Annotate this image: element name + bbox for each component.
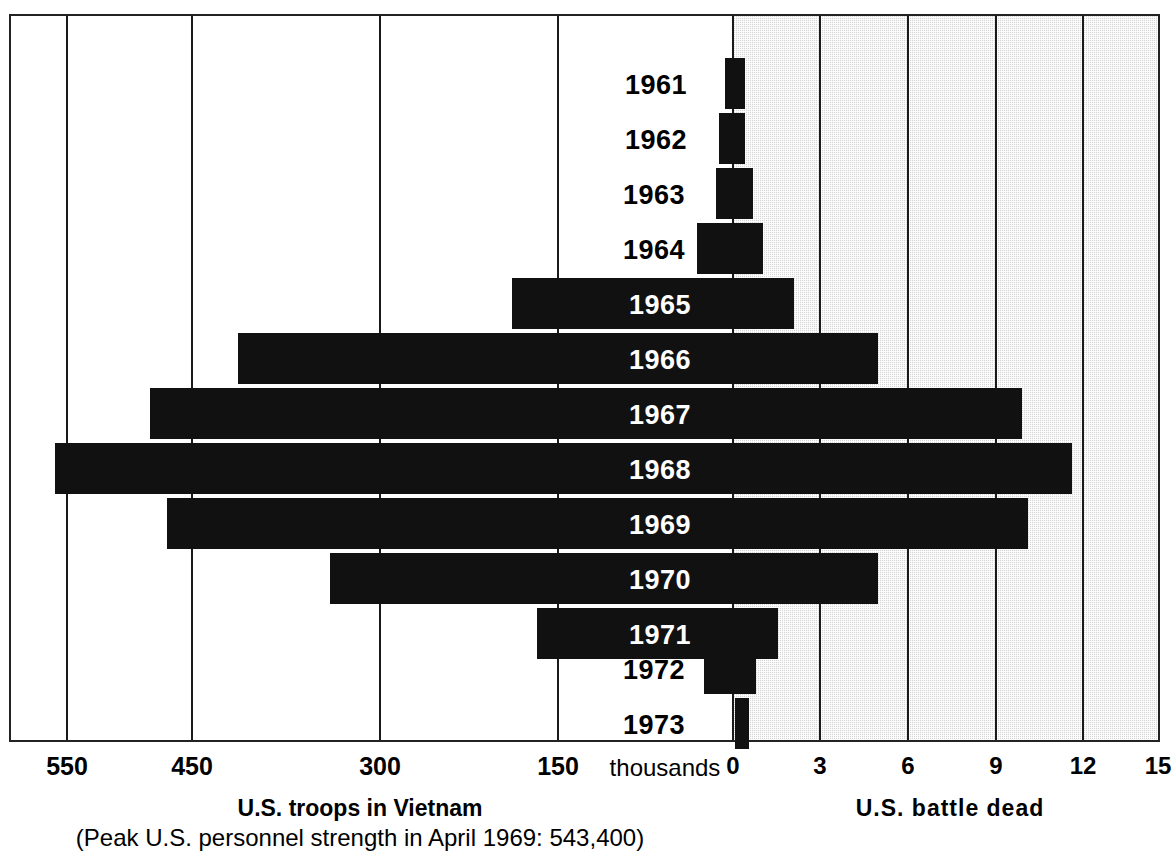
xtick-troops-450: 450	[142, 752, 242, 781]
year-label-1970: 1970	[600, 567, 720, 594]
xtick-troops-550: 550	[17, 752, 117, 781]
gridline-450	[191, 16, 193, 740]
gridline-6	[907, 16, 909, 740]
bar-1963	[716, 168, 753, 219]
year-label-1963: 1963	[594, 182, 714, 209]
bar-1962	[719, 113, 745, 164]
right-axis-title: U.S. battle dead	[790, 795, 1110, 822]
xtick-dead-3: 3	[770, 752, 870, 780]
gridline-9	[995, 16, 997, 740]
xtick-dead-9: 9	[946, 752, 1046, 780]
peak-strength-note: (Peak U.S. personnel strength in April 1…	[40, 824, 680, 852]
year-label-1973: 1973	[594, 712, 714, 739]
xtick-troops-300: 300	[330, 752, 430, 781]
year-label-1972: 1972	[594, 657, 714, 684]
year-label-1969: 1969	[600, 512, 720, 539]
left-axis-title: U.S. troops in Vietnam	[160, 795, 560, 822]
chart-plot-area: 1961196219631964196519661967196819691970…	[9, 14, 1160, 742]
year-label-1971: 1971	[600, 622, 720, 649]
bar-1968	[55, 443, 1072, 494]
gridline-550	[66, 16, 68, 740]
year-label-1968: 1968	[600, 457, 720, 484]
center-unit-label: thousands	[600, 754, 730, 782]
year-label-1966: 1966	[600, 347, 720, 374]
xtick-dead-15: 15	[1108, 752, 1176, 780]
bar-1969	[167, 498, 1028, 549]
year-label-1961: 1961	[596, 72, 716, 99]
gridline-12	[1082, 16, 1084, 740]
bar-1966	[238, 333, 878, 384]
bar-1973	[735, 698, 749, 749]
year-label-1967: 1967	[600, 402, 720, 429]
xtick-troops-150: 150	[508, 752, 608, 781]
year-label-1964: 1964	[594, 237, 714, 264]
xtick-dead-6: 6	[858, 752, 958, 780]
bar-1961	[725, 58, 745, 109]
year-label-1962: 1962	[596, 127, 716, 154]
year-label-1965: 1965	[600, 292, 720, 319]
bar-1967	[150, 388, 1022, 439]
